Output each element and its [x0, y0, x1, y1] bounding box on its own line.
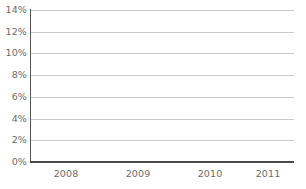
y-tick-label-2: 2% — [0, 135, 27, 145]
y-axis-line — [30, 9, 31, 163]
plot-area — [31, 10, 294, 162]
gridline-6 — [31, 97, 294, 98]
y-tick-label-12: 12% — [0, 27, 27, 37]
gridline-8 — [31, 75, 294, 76]
y-tick-label-10: 10% — [0, 48, 27, 58]
y-tick-label-8: 8% — [0, 70, 27, 80]
plot-data-surface — [31, 10, 294, 162]
gridline-4 — [31, 119, 294, 120]
gridline-2 — [31, 140, 294, 141]
x-axis-line — [30, 161, 294, 163]
y-tick-label-14: 14% — [0, 5, 27, 15]
gridline-10 — [31, 53, 294, 54]
y-tick-label-0: 0% — [0, 157, 27, 167]
gridline-12 — [31, 32, 294, 33]
x-tick-label-2009: 2009 — [113, 168, 163, 179]
x-tick-label-2008: 2008 — [41, 168, 91, 179]
gridline-14 — [31, 10, 294, 11]
chart-container: 14% 12% 10% 8% 6% 4% 2% 0% 2008 2009 201… — [0, 0, 306, 189]
x-tick-label-2011: 2011 — [243, 168, 293, 179]
x-tick-label-2010: 2010 — [185, 168, 235, 179]
y-tick-label-4: 4% — [0, 114, 27, 124]
y-tick-label-6: 6% — [0, 92, 27, 102]
y-axis-tick-labels: 14% 12% 10% 8% 6% 4% 2% 0% — [0, 0, 27, 189]
